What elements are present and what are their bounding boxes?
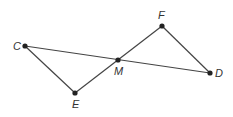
point-label-c: C [13,40,21,52]
segment-fd [162,26,210,73]
point-label-d: D [215,67,223,79]
geometry-diagram: CFMDE [0,0,233,117]
point-e [72,90,77,95]
segment-ce [25,46,75,93]
points [22,23,212,95]
point-m [115,57,120,62]
point-label-e: E [72,98,80,110]
point-f [159,23,164,28]
point-label-m: M [114,65,124,77]
point-c [22,43,27,48]
point-label-f: F [158,9,166,21]
point-d [207,70,212,75]
